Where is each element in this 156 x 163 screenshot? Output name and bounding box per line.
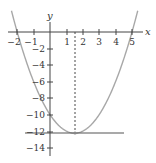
svg-text:2: 2 — [80, 37, 86, 47]
svg-text:−2: −2 — [32, 44, 45, 54]
svg-text:−2: −2 — [7, 37, 20, 47]
svg-text:−4: −4 — [32, 60, 46, 70]
svg-text:3: 3 — [96, 37, 102, 47]
vertex-point — [73, 131, 76, 134]
y-axis-label: y — [46, 10, 53, 21]
x-tick-labels: −2 −1 1 2 3 4 5 — [7, 37, 135, 47]
svg-text:−8: −8 — [32, 93, 46, 103]
svg-text:5: 5 — [129, 37, 135, 47]
svg-text:−6: −6 — [32, 77, 46, 87]
x-axis-label: x — [145, 26, 151, 37]
svg-text:−12: −12 — [26, 127, 45, 137]
y-tick-labels: −2 −4 −6 −8 −10 −12 −14 — [26, 44, 45, 153]
svg-text:4: 4 — [113, 37, 119, 47]
svg-text:−10: −10 — [26, 110, 45, 120]
svg-text:−14: −14 — [26, 143, 45, 153]
parabola-chart: x y −2 −1 1 2 3 4 5 −2 −4 −6 −8 −10 −12 — [0, 0, 156, 163]
svg-text:1: 1 — [64, 37, 70, 47]
